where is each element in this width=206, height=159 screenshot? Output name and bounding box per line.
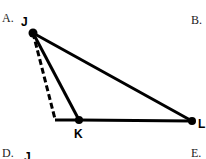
vertex-l-dot [188,117,196,125]
triangle-diagram [0,0,206,159]
vertex-j-dot [29,29,38,38]
point-l-label: L [198,118,205,130]
point-j-label: J [21,16,28,28]
side-kl-line [79,120,192,121]
altitude-dashed-line [33,33,55,119]
vertex-k-dot [75,116,83,124]
point-k-label: K [74,128,83,140]
point-j-partial-label: J [24,151,31,159]
